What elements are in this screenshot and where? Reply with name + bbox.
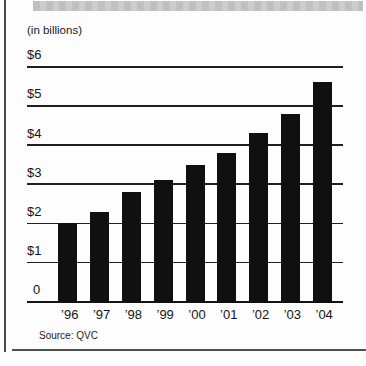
- bar-’99: [154, 180, 173, 302]
- bar-’03: [281, 114, 300, 303]
- bar-’01: [217, 153, 236, 303]
- bar-’98: [122, 192, 141, 303]
- x-axis-label: ’00: [180, 308, 214, 322]
- x-axis-label: ’98: [116, 308, 150, 322]
- newspaper-chart-clipping: (in billions) $6$5$4$3$2$10’96’97’98’99’…: [0, 0, 366, 366]
- bar-’02: [249, 133, 268, 302]
- bar-’04: [313, 82, 332, 302]
- y-axis-tick-label: $6: [27, 47, 41, 62]
- source-credit: Source: QVC: [39, 330, 98, 342]
- x-axis-label: ’03: [275, 308, 309, 322]
- x-axis-label: ’99: [148, 308, 182, 322]
- y-axis-tick-label: $1: [27, 243, 41, 258]
- bottom-rule: [12, 349, 366, 351]
- x-axis-label: ’04: [307, 308, 341, 322]
- y-axis-tick-label: $3: [27, 165, 41, 180]
- y-axis-tick-label: $5: [27, 86, 41, 101]
- bar-chart: $6$5$4$3$2$10’96’97’98’99’00’01’02’03’04: [0, 0, 366, 366]
- y-axis-tick-label: $4: [27, 126, 41, 141]
- bar-’96: [58, 223, 77, 302]
- x-axis-label: ’96: [53, 308, 87, 322]
- gridline: [27, 66, 343, 68]
- x-axis-label: ’01: [212, 308, 246, 322]
- gridline: [27, 105, 343, 107]
- bar-’00: [186, 165, 205, 303]
- x-axis-label: ’02: [244, 308, 278, 322]
- x-axis-label: ’97: [85, 308, 119, 322]
- bar-’97: [90, 212, 109, 303]
- y-axis-tick-label: 0: [33, 282, 40, 297]
- y-axis-tick-label: $2: [27, 204, 41, 219]
